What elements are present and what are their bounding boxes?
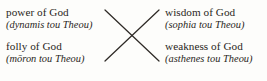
label-top-left: power of God (dynamis tou Theou) [6, 7, 92, 31]
label-bottom-left: folly of God (mōron tou Theou) [6, 41, 84, 65]
label-top-right-main: wisdom of God [165, 7, 244, 18]
label-bottom-left-gloss: (mōron tou Theou) [6, 54, 84, 64]
label-top-left-gloss: (dynamis tou Theou) [6, 20, 92, 30]
label-top-right: wisdom of God (sophia tou Theou) [165, 7, 244, 31]
label-bottom-left-main: folly of God [6, 41, 84, 52]
label-top-right-gloss: (sophia tou Theou) [165, 20, 244, 30]
label-bottom-right: weakness of God (asthenes tou Theou) [165, 41, 253, 65]
label-top-left-main: power of God [6, 7, 92, 18]
chiasmus-diagram: power of God (dynamis tou Theou) folly o… [0, 0, 267, 81]
label-bottom-right-gloss: (asthenes tou Theou) [165, 54, 253, 64]
label-bottom-right-main: weakness of God [165, 41, 253, 52]
